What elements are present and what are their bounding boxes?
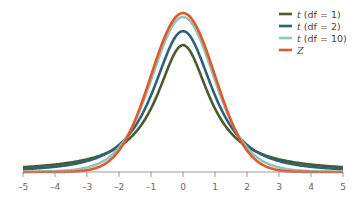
legend-label: Z	[296, 45, 304, 56]
curve-t-df-2	[23, 31, 343, 169]
x-tick-label: 5	[340, 182, 346, 192]
curve-z	[23, 13, 343, 172]
x-tick-label: 4	[308, 182, 314, 192]
density-curves	[23, 13, 343, 172]
x-tick-label: –5	[18, 182, 28, 192]
curve-t-df-10	[23, 17, 343, 172]
x-tick-label: 2	[244, 182, 250, 192]
legend: t (df = 1)t (df = 2)t (df = 10)Z	[279, 9, 347, 56]
legend-label: t (df = 10)	[297, 33, 347, 44]
x-tick-label: –4	[50, 182, 61, 192]
t-vs-z-density-chart: –5–4–3–2–1012345 t (df = 1)t (df = 2)t (…	[0, 0, 364, 206]
x-tick-label: 0	[180, 182, 186, 192]
x-tick-label: –2	[114, 182, 124, 192]
x-tick-label: 1	[212, 182, 218, 192]
x-tick-label: –3	[82, 182, 92, 192]
legend-label: t (df = 2)	[297, 21, 341, 32]
legend-label: t (df = 1)	[297, 9, 341, 20]
x-tick-label: 3	[276, 182, 282, 192]
x-tick-label: –1	[146, 182, 156, 192]
curve-t-df-1	[23, 45, 343, 167]
x-axis-ticks: –5–4–3–2–1012345	[18, 172, 346, 192]
